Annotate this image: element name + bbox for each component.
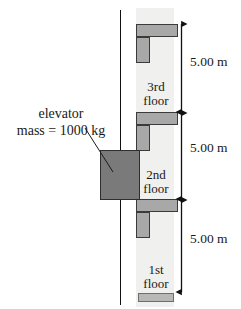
floor-label-third-line1: 3rd: [138, 80, 174, 94]
second-floor-wall-stub: [136, 212, 150, 238]
floor-label-third: 3rd floor: [138, 80, 174, 108]
elevator-car: [100, 150, 140, 200]
dimension-label-third-to-roof: 5.00 m: [190, 55, 228, 69]
third-floor-slab: [136, 112, 178, 125]
roof-wall-stub: [136, 37, 150, 63]
elevator-callout-line1: elevator: [6, 105, 116, 122]
floor-label-second-line1: 2nd: [138, 168, 174, 182]
elevator-callout-line2: mass = 1000 kg: [6, 122, 116, 139]
elevator-shaft-diagram: 3rd floor 2nd floor 1st floor 5.00 m 5.0…: [0, 0, 241, 309]
floor-label-first: 1st floor: [138, 263, 174, 291]
dimension-label-second-to-third: 5.00 m: [190, 141, 228, 155]
floor-label-third-line2: floor: [138, 94, 174, 108]
floor-label-second: 2nd floor: [138, 168, 174, 196]
floor-label-second-line2: floor: [138, 182, 174, 196]
first-floor-slab: [138, 293, 174, 302]
roof-slab: [136, 24, 178, 37]
floor-label-first-line1: 1st: [138, 263, 174, 277]
floor-label-first-line2: floor: [138, 277, 174, 291]
elevator-callout-text: elevator mass = 1000 kg: [6, 105, 116, 139]
second-floor-slab: [136, 199, 178, 212]
third-floor-wall-stub: [136, 125, 150, 151]
dimension-label-first-to-second: 5.00 m: [190, 232, 228, 246]
